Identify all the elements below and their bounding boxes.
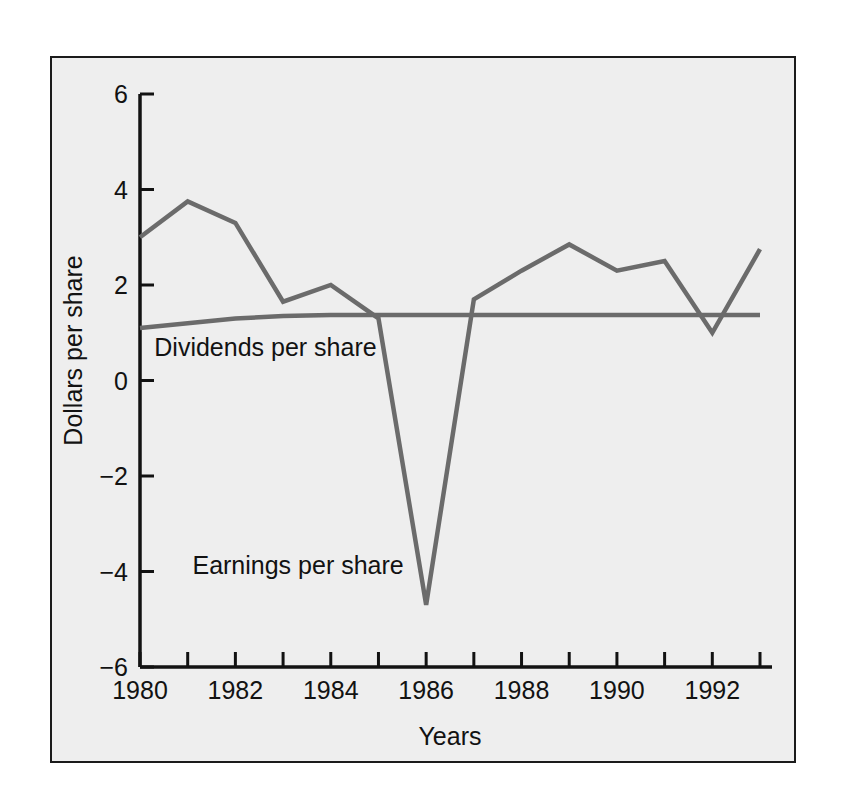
line-chart-canvas: −6−4−202461980198219841986198819901992Ye… (52, 58, 794, 761)
y-axis-tick-label: 2 (114, 271, 128, 299)
series-line-dividends-per-share (140, 315, 760, 328)
y-axis-tick-label: 4 (114, 176, 128, 204)
y-axis-tick-label: 6 (114, 80, 128, 108)
x-axis-tick-label: 1990 (589, 676, 645, 704)
chart-frame: −6−4−202461980198219841986198819901992Ye… (50, 56, 796, 763)
x-axis-tick-label: 1986 (398, 676, 454, 704)
y-axis-tick-label: −4 (99, 558, 128, 586)
x-axis-tick-label: 1988 (494, 676, 550, 704)
y-axis-tick-label: −2 (99, 462, 128, 490)
figure-root: −6−4−202461980198219841986198819901992Ye… (0, 0, 846, 804)
dividends-series-label: Dividends per share (154, 333, 376, 361)
x-axis-title: Years (418, 722, 481, 750)
y-axis-title: Dollars per share (59, 255, 87, 445)
x-axis-tick-label: 1982 (208, 676, 264, 704)
x-axis-tick-label: 1984 (303, 676, 359, 704)
x-axis-tick-label: 1980 (112, 676, 168, 704)
earnings-series-label: Earnings per share (192, 551, 403, 579)
series-line-earnings-per-share (140, 201, 760, 604)
x-axis-tick-label: 1992 (684, 676, 740, 704)
y-axis-tick-label: 0 (114, 367, 128, 395)
